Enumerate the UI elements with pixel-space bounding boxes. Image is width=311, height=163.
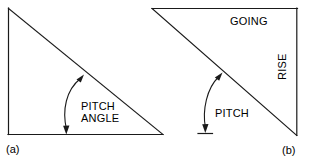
panel-b-angle-arc xyxy=(204,77,218,128)
panel-a-arrow-head-lower xyxy=(63,126,69,135)
panel-a-angle-label: ANGLE xyxy=(81,112,119,124)
figure-container: PITCH ANGLE (a) GOING RISE xyxy=(0,0,311,163)
panel-a-group: PITCH ANGLE (a) xyxy=(6,8,163,155)
panel-b-pitch-label: PITCH xyxy=(215,107,249,119)
panel-b-rise-label: RISE xyxy=(276,54,288,80)
pitch-diagram-svg: PITCH ANGLE (a) GOING RISE xyxy=(0,0,311,163)
panel-a-caption: (a) xyxy=(6,143,19,155)
panel-a-pitch-label: PITCH xyxy=(81,100,115,112)
panel-a-angle-arc xyxy=(65,79,81,130)
panel-b-arrow-head-lower xyxy=(202,124,208,133)
panel-b-caption: (b) xyxy=(282,144,295,156)
panel-b-group: GOING RISE PITCH (b) xyxy=(152,8,298,156)
panel-b-going-label: GOING xyxy=(230,15,268,27)
